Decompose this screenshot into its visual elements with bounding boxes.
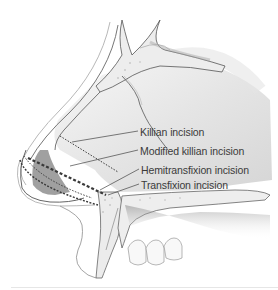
- label-modified-killian-incision: Modified killian incision: [140, 145, 244, 157]
- label-transfixion-incision: Transfixion incision: [141, 179, 228, 191]
- nasal-incision-diagram: Killian incision Modified killian incisi…: [0, 0, 278, 290]
- teeth: [128, 238, 182, 265]
- label-killian-incision: Killian incision: [140, 126, 204, 138]
- upper-lip-profile: [60, 206, 96, 278]
- bottom-divider: [11, 287, 278, 288]
- label-hemitransfixion-incision: Hemitransfixion incision: [141, 164, 249, 176]
